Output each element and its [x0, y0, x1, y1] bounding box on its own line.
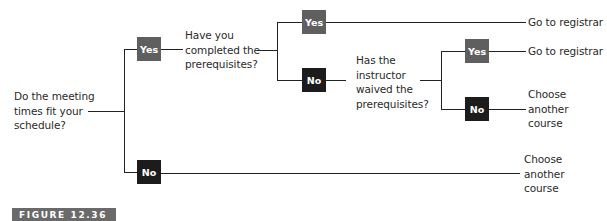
waived-branch-line	[441, 51, 442, 110]
level3-no-connector	[489, 109, 526, 110]
level1-no-box: No	[137, 160, 161, 184]
level3-yes-stub	[441, 51, 466, 52]
level3-no-box: No	[465, 97, 489, 121]
level2-no-connector	[326, 80, 346, 81]
root-connector	[88, 111, 125, 112]
level2-yes-stub	[277, 22, 303, 23]
root-branch-line	[124, 49, 125, 173]
outcome-go-to-registrar-2: Go to registrar	[528, 44, 603, 59]
outcome-choose-another-course-2: Choose another course	[528, 87, 568, 131]
figure-label: FIGURE 12.36	[12, 208, 116, 221]
level2-no-box: No	[302, 68, 326, 92]
prerequisites-question: Have you completed the prerequisites?	[185, 28, 260, 72]
level1-yes-connector	[161, 49, 183, 50]
outcome-go-to-registrar-1: Go to registrar	[528, 15, 603, 30]
outcome-choose-another-course-1: Choose another course	[524, 152, 564, 196]
level2-yes-box: Yes	[302, 10, 326, 34]
level1-yes-box: Yes	[137, 37, 161, 61]
level2-no-stub	[277, 80, 303, 81]
level3-yes-box: Yes	[465, 39, 489, 63]
prereq-connector	[257, 50, 278, 51]
level3-no-stub	[441, 109, 466, 110]
level3-yes-connector	[489, 51, 526, 52]
level1-no-connector	[161, 173, 520, 174]
level2-yes-connector	[326, 22, 526, 23]
waived-connector	[420, 80, 442, 81]
level1-yes-stub	[124, 49, 138, 50]
root-question: Do the meeting times fit your schedule?	[14, 89, 95, 133]
level1-no-stub	[124, 172, 138, 173]
prereq-branch-line	[277, 22, 278, 81]
waived-question: Has the instructor waived the prerequisi…	[356, 53, 429, 111]
